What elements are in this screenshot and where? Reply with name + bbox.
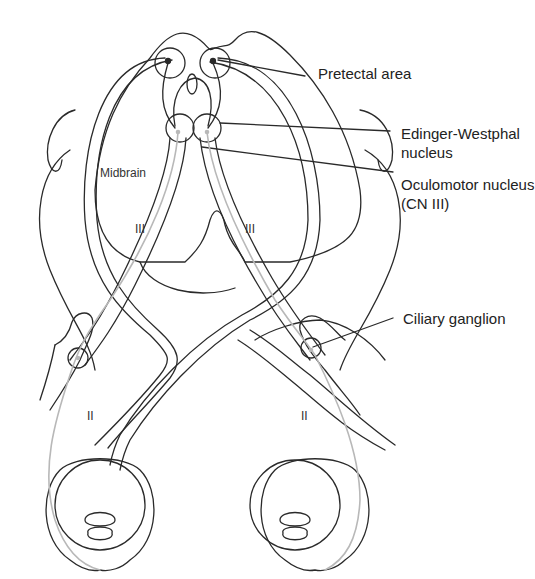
label-cn3-right: III	[245, 222, 255, 236]
label-midbrain: Midbrain	[100, 164, 146, 183]
leader-oculomotor	[202, 147, 393, 172]
label-cn2-left: II	[87, 409, 94, 423]
lens-right	[280, 513, 310, 527]
label-oculomotor-line1: Oculomotor nucleus	[401, 175, 534, 194]
pupillary-reflex-diagram	[0, 0, 535, 579]
optic-tract-right-outer	[120, 58, 320, 470]
lens-left	[85, 513, 115, 527]
parasympathetic-fiber-left	[49, 132, 178, 570]
leader-edinger-westphal	[220, 123, 390, 131]
optic-tract-left-inner	[96, 60, 177, 448]
label-cn2-right: II	[301, 409, 308, 423]
label-edinger-westphal-line2: nucleus	[401, 143, 453, 162]
eyeball-right-outer	[261, 459, 369, 571]
parasympathetic-fiber-right	[207, 132, 360, 570]
cerebral-aqueduct	[187, 74, 197, 94]
eyeball-left	[55, 460, 145, 550]
eyeball-left-outer	[46, 459, 154, 571]
label-cn3-left: III	[135, 222, 145, 236]
eyeball-right	[250, 460, 340, 550]
label-edinger-westphal-line1: Edinger-Westphal	[401, 124, 520, 143]
label-ciliary-ganglion: Ciliary ganglion	[403, 309, 506, 328]
label-oculomotor-line2: (CN III)	[401, 194, 449, 213]
label-pretectal-area: Pretectal area	[318, 64, 411, 83]
